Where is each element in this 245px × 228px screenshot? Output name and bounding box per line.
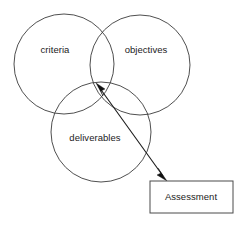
venn-label-criteria: criteria	[41, 45, 70, 55]
diagram-canvas: criteria objectives deliverables Assessm…	[0, 0, 245, 228]
venn-label-deliverables: deliverables	[69, 133, 120, 143]
venn-label-objectives: objectives	[125, 45, 168, 55]
assessment-box-label: Assessment	[165, 192, 217, 202]
